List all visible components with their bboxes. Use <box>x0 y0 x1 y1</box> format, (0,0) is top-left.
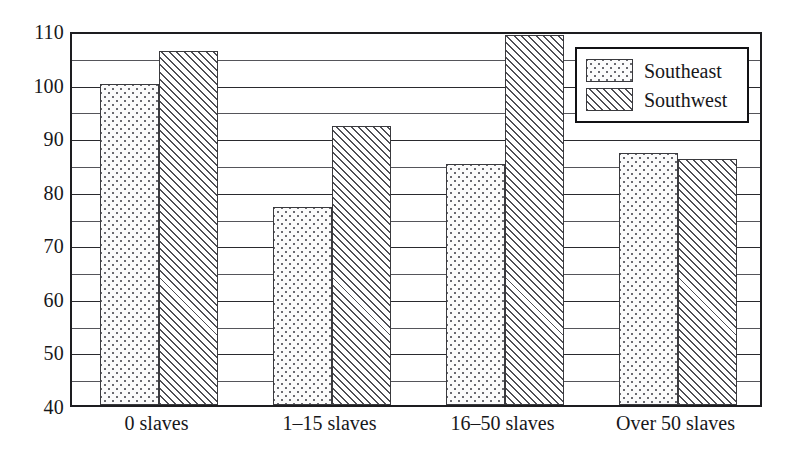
legend-label: Southwest <box>644 90 727 110</box>
legend-label: Southeast <box>644 61 722 81</box>
y-tick-label: 110 <box>8 21 64 44</box>
y-tick-label: 40 <box>8 396 64 419</box>
bar <box>273 207 332 405</box>
bar <box>159 51 218 405</box>
bar <box>678 159 737 405</box>
legend-item: Southeast <box>586 56 738 85</box>
bar-group <box>418 34 591 405</box>
bar <box>332 126 391 405</box>
y-tick-label: 70 <box>8 235 64 258</box>
hatched-swatch-icon <box>586 88 633 111</box>
y-axis: 405060708090100110 <box>2 0 64 457</box>
bar-chart: 405060708090100110 0 slaves1–15 slaves16… <box>0 0 801 457</box>
bar-group <box>245 34 418 405</box>
bar-group <box>72 34 245 405</box>
y-tick-label: 60 <box>8 288 64 311</box>
x-tick-label: Over 50 slaves <box>616 412 735 435</box>
x-tick-label: 16–50 slaves <box>451 412 555 435</box>
bar <box>619 153 678 405</box>
bar <box>100 84 159 405</box>
y-tick-label: 50 <box>8 342 64 365</box>
bar <box>446 164 505 405</box>
y-tick-label: 90 <box>8 128 64 151</box>
chart-legend: Southeast Southwest <box>575 47 749 123</box>
bar <box>505 35 564 405</box>
y-tick-label: 100 <box>8 74 64 97</box>
dotted-swatch-icon <box>586 59 633 82</box>
x-tick-label: 1–15 slaves <box>283 412 377 435</box>
x-tick-label: 0 slaves <box>125 412 189 435</box>
y-tick-label: 80 <box>8 181 64 204</box>
legend-item: Southwest <box>586 85 738 114</box>
